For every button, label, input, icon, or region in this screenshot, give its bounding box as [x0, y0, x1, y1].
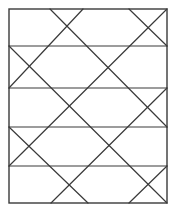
diagonal-lines: [9, 9, 167, 203]
diagonal-4: [9, 9, 83, 88]
outer-frame: [9, 9, 167, 203]
horizontal-dividers: [9, 46, 167, 166]
diagonal-5: [9, 127, 88, 203]
lattice-diagram: [0, 0, 179, 215]
diagonal-3: [9, 46, 167, 203]
